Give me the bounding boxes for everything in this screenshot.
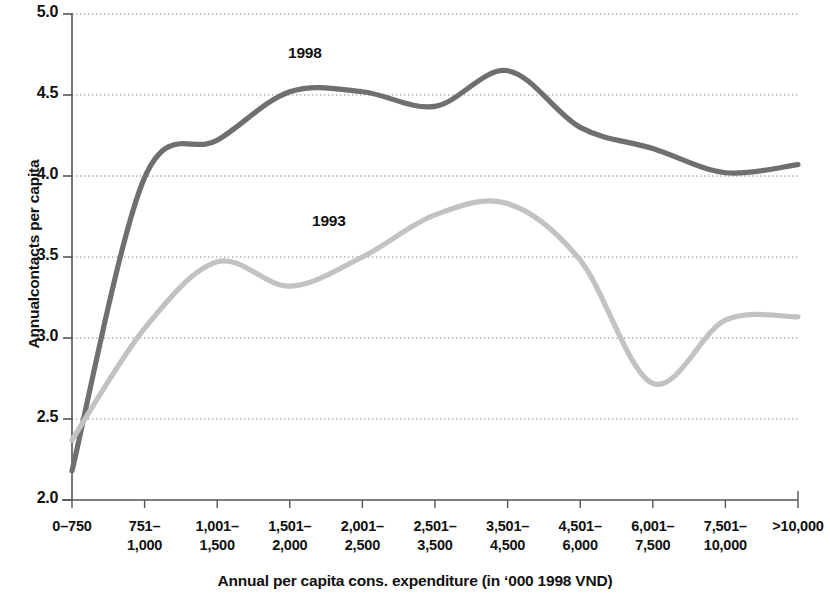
x-axis-tick-label-line1: 4,501– (559, 518, 602, 534)
x-axis-tick-label: >10,000 (750, 517, 830, 536)
chart-root: Annualcontacts per capita 2.02.53.03.54.… (0, 0, 830, 599)
x-axis-title: Annual per capita cons. expenditure (in … (0, 572, 830, 590)
y-axis-tick-label: 2.0 (14, 489, 58, 507)
x-axis-tick-label-line1: 2,501– (413, 518, 456, 534)
x-axis-tick-label-line1: 2,001– (341, 518, 384, 534)
y-axis-tick-label: 3.5 (14, 246, 58, 264)
x-axis-tick-label-line1: 1,501– (268, 518, 311, 534)
y-axis-tick-label: 2.5 (14, 408, 58, 426)
series-line-1993 (72, 201, 798, 440)
y-axis-tick-label: 5.0 (14, 3, 58, 21)
plot-area (0, 0, 830, 599)
x-axis-tick-label-line1: 751– (129, 518, 160, 534)
x-axis-tick-label-line1: 7,501– (704, 518, 747, 534)
y-axis-tick-label: 4.5 (14, 84, 58, 102)
y-axis-tick-label: 3.0 (14, 327, 58, 345)
y-axis-tick-label: 4.0 (14, 165, 58, 183)
x-axis-tick-label-line1: 6,001– (631, 518, 674, 534)
x-axis-tick-label-line1: >10,000 (772, 518, 823, 534)
x-axis-tick-label-line1: 3,501– (486, 518, 529, 534)
series-line-1998 (72, 70, 798, 470)
x-axis-tick-label-line2: 10,000 (677, 536, 773, 555)
series-label-1998: 1998 (288, 44, 322, 62)
series-label-1993: 1993 (312, 212, 346, 230)
x-axis-tick-label-line1: 1,001– (196, 518, 239, 534)
x-axis-tick-label-line1: 0–750 (52, 518, 91, 534)
